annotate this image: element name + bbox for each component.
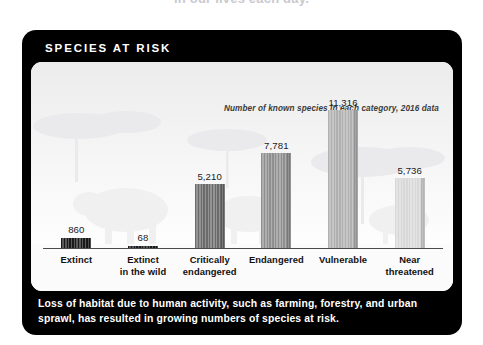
card-caption: Loss of habitat due to human activity, s…	[38, 297, 448, 326]
bar-value-label: 7,781	[264, 141, 289, 151]
chart-panel: Number of known species in each category…	[31, 62, 453, 291]
category-label-5: Vulnerable	[310, 251, 377, 281]
category-label-line: Critically	[176, 254, 243, 266]
category-axis-labels: ExtinctExtinctin the wildCriticallyendan…	[43, 251, 443, 281]
bar-slot: 7,781	[243, 96, 310, 248]
category-label-line: Endangered	[243, 254, 310, 266]
bar-slot: 5,210	[176, 96, 243, 248]
category-label-4: Endangered	[243, 251, 310, 281]
page-title: SPECIES AT RISK	[45, 42, 171, 54]
bar	[61, 238, 91, 248]
bar-value-label: 11,316	[328, 98, 357, 108]
category-label-2: Extinctin the wild	[110, 251, 177, 281]
axis-baseline	[43, 248, 443, 249]
infographic-card: SPECIES AT RISK	[22, 30, 462, 335]
category-label-line: Extinct	[43, 254, 110, 266]
bar	[328, 110, 358, 248]
bar-value-label: 5,736	[397, 166, 422, 176]
clipped-page-text: in our lives each day.	[0, 0, 483, 7]
bar	[261, 153, 291, 248]
bar-slot: 68	[110, 96, 177, 248]
category-label-line: Near	[376, 254, 443, 266]
category-label-line: threatened	[376, 266, 443, 278]
bar-value-label: 5,210	[197, 172, 222, 182]
category-label-3: Criticallyendangered	[176, 251, 243, 281]
plot-area: 860685,2107,78111,3165,736 ExtinctExtinc…	[43, 96, 443, 281]
bar	[195, 184, 225, 248]
category-label-6: Nearthreatened	[376, 251, 443, 281]
category-label-line: Vulnerable	[310, 254, 377, 266]
bar-group: 860685,2107,78111,3165,736	[43, 96, 443, 248]
bar-value-label: 68	[138, 233, 149, 243]
bar	[395, 178, 425, 248]
bar-slot: 860	[43, 96, 110, 248]
category-label-line: endangered	[176, 266, 243, 278]
bar-slot: 5,736	[376, 96, 443, 248]
header-tab: SPECIES AT RISK	[31, 35, 189, 61]
bar-value-label: 860	[68, 225, 84, 235]
bar-slot: 11,316	[310, 96, 377, 248]
category-label-1: Extinct	[43, 251, 110, 281]
category-label-line: Extinct	[110, 254, 177, 266]
category-label-line: in the wild	[110, 266, 177, 278]
